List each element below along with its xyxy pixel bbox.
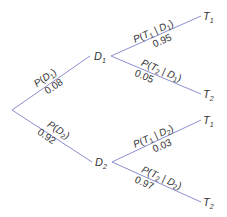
node-d2-t2: T2 <box>203 196 214 210</box>
node-d1: D1 <box>94 50 106 64</box>
probability-tree-diagram: D1 D2 T1 T2 T1 T2 P(D1) 0.08 P(D2) 0.92 … <box>0 0 227 217</box>
node-d2: D2 <box>95 156 107 170</box>
edge-d1-t1 <box>111 16 201 56</box>
label-p-t1-d2: P(T1 | D2) 0.03 <box>131 123 179 161</box>
node-d1-t2: T2 <box>203 88 214 102</box>
label-p-d1: P(D1) 0.08 <box>32 66 66 99</box>
label-p-t1-d1: P(T1 | D1) 0.95 <box>131 18 179 56</box>
node-d2-t1: T1 <box>203 114 214 128</box>
node-d1-t1: T1 <box>203 10 214 24</box>
